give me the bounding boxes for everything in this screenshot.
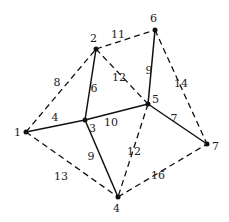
edge-weight-label: 14	[174, 77, 188, 90]
edge-weight-label: 11	[111, 28, 125, 41]
edge-weight-label: 16	[151, 169, 165, 182]
edge-weight-label: 9	[88, 150, 95, 163]
edge-2-6	[96, 30, 155, 49]
node-label: 6	[150, 12, 157, 25]
edge-weight-label: 9	[146, 64, 153, 77]
node-label: 2	[90, 32, 97, 45]
edge-weight-label: 13	[54, 170, 68, 183]
node-2	[94, 47, 99, 52]
node-6	[153, 28, 158, 33]
edge-weight-label: 4	[52, 111, 59, 124]
node-label: 7	[212, 140, 219, 153]
node-label: 4	[113, 202, 120, 215]
node-7	[205, 142, 210, 147]
node-3	[83, 118, 88, 123]
edge-weight-label: 12	[127, 145, 141, 158]
edge-weight-label: 10	[104, 116, 118, 129]
node-label: 3	[89, 122, 96, 135]
edge-weight-label: 7	[171, 112, 178, 125]
edge-weight-label: 6	[91, 82, 98, 95]
edge-weight-label: 8	[54, 76, 61, 89]
node-label: 5	[152, 93, 159, 106]
edge-weight-label: 12	[112, 71, 126, 84]
node-5	[146, 102, 151, 107]
node-label: 1	[14, 126, 21, 139]
graph-diagram: 461099781112141312161234567	[0, 0, 229, 222]
node-1	[24, 130, 29, 135]
graph-canvas: 461099781112141312161234567	[0, 0, 229, 222]
node-4	[116, 195, 121, 200]
